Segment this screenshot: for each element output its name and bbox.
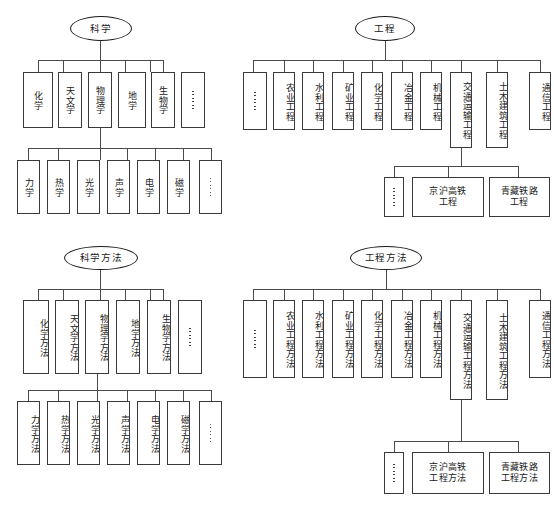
node-physics: 物理学: [88, 72, 112, 128]
node-line-1: 青藏铁路: [501, 186, 539, 197]
node-agricultural-engineering-method: 农业工程方法: [273, 300, 295, 378]
node-mining-engineering: 矿业工程: [332, 72, 354, 130]
node-thermology: 热学: [47, 160, 70, 214]
ellipsis-dots-icon: [210, 424, 211, 443]
connector-drop-engm-9: [497, 289, 498, 300]
ellipsis-dots-icon: [210, 178, 211, 197]
connector-drop-phy-4: [127, 148, 128, 160]
connector-drop-sci-6: [163, 60, 164, 72]
connector-drop-eng-8: [461, 60, 462, 72]
connector-drop-engm-8: [461, 289, 462, 300]
connector-drop-scim-6: [163, 289, 164, 300]
ellipsis-dots-icon: [192, 91, 193, 110]
connector-engineering-method-trunk: [386, 270, 387, 289]
node-civil-construction-engineering-method: 土木建筑工程方法: [486, 300, 508, 400]
connector-drop-phym-2: [58, 390, 59, 401]
node-chemistry: 化学: [23, 72, 53, 128]
connector-drop-scim-3: [100, 289, 101, 300]
connector-drop-sci-4: [125, 60, 126, 72]
connector-drop-eng-5: [372, 60, 373, 72]
connector-transport-bus: [394, 166, 518, 167]
connector-physics-trunk: [100, 128, 101, 148]
connector-drop-phy-2: [58, 148, 59, 160]
node-qinghai-tibet-railway-engineering: 青藏铁路 工程: [489, 177, 550, 217]
node-physics-method: 物理学方法: [85, 300, 109, 374]
connector-drop-sci-1: [38, 60, 39, 72]
node-geoscience-method: 地学方法: [116, 300, 140, 374]
connector-drop-trm-1: [394, 441, 395, 452]
node-transport-method-ellipsis: [384, 452, 404, 494]
node-science-method-ellipsis: [178, 300, 202, 374]
node-water-conservancy-engineering: 水利工程: [302, 72, 324, 130]
connector-science-method-trunk: [100, 270, 101, 289]
connector-drop-tr-2: [448, 166, 449, 177]
connector-drop-engm-2: [284, 289, 285, 300]
connector-drop-eng-3: [313, 60, 314, 72]
node-agricultural-engineering: 农业工程: [273, 72, 295, 130]
node-transportation-engineering: 交通运输工程: [450, 72, 472, 148]
connector-drop-phy-1: [28, 148, 29, 160]
connector-drop-engm-5: [372, 289, 373, 300]
node-communication-engineering: 通信工程: [529, 72, 551, 130]
connector-drop-sci-3: [100, 60, 101, 72]
connector-transport-method-stem: [461, 416, 462, 441]
node-magnetism: 磁学: [167, 160, 190, 214]
connector-drop-eng-7: [431, 60, 432, 72]
node-line-1: 京沪高铁: [429, 462, 467, 473]
connector-drop-eng-6: [402, 60, 403, 72]
node-mechanics: 力学: [17, 160, 40, 214]
connector-drop-eng-10: [540, 60, 541, 72]
connector-drop-phym-7: [211, 390, 212, 401]
node-electricity: 电学: [137, 160, 160, 214]
connector-science-trunk: [100, 41, 101, 60]
node-transport-ellipsis: [384, 177, 404, 217]
node-chemical-engineering-method: 化学工程方法: [361, 300, 383, 378]
connector-drop-eng-4: [343, 60, 344, 72]
connector-drop-tr-1: [394, 166, 395, 177]
connector-drop-eng-1: [253, 60, 254, 72]
root-node-engineering-method: 工程方法: [350, 246, 422, 270]
diagram-canvas: 科学 化学 天文学 物理学 地学 生物学 力学 热学 光学 声学 电学 磁学 工…: [0, 0, 554, 507]
connector-drop-phym-1: [28, 390, 29, 401]
connector-drop-engm-1: [253, 289, 254, 300]
node-line-1: 青藏铁路: [501, 462, 539, 473]
connector-drop-trm-2: [448, 441, 449, 452]
node-line-2: 工程: [510, 197, 529, 208]
root-node-science: 科学: [70, 16, 132, 41]
root-node-engineering: 工程: [355, 16, 415, 41]
connector-drop-trm-3: [518, 441, 519, 452]
connector-transport-method-bus: [394, 441, 518, 442]
node-optics-method: 光学方法: [77, 401, 100, 465]
node-civil-construction-engineering: 土木建筑工程: [486, 72, 508, 148]
node-engineering-method-ellipsis: [243, 300, 267, 378]
node-acoustics-method: 声学方法: [107, 401, 130, 465]
connector-transport-method-trunk: [461, 400, 462, 416]
connector-drop-engm-3: [313, 289, 314, 300]
connector-drop-phy-3: [100, 148, 101, 160]
connector-drop-eng-9: [497, 60, 498, 72]
node-line-1: 京沪高铁: [429, 186, 467, 197]
connector-drop-engm-10: [540, 289, 541, 300]
ellipsis-dots-icon: [393, 188, 394, 207]
node-mechanical-engineering-method: 机械工程方法: [420, 300, 442, 378]
connector-drop-eng-2: [284, 60, 285, 72]
node-beijing-shanghai-hsr-engineering: 京沪高铁 工程: [412, 177, 484, 217]
connector-drop-scim-5: [150, 289, 151, 300]
connector-drop-phy-6: [183, 148, 184, 160]
node-biology-method: 生物学方法: [147, 300, 171, 374]
node-engineering-ellipsis: [243, 72, 267, 130]
node-transportation-engineering-method: 交通运输工程方法: [450, 300, 472, 400]
connector-drop-phym-5: [155, 390, 156, 401]
node-physics-method-ellipsis: [199, 401, 222, 465]
node-electricity-method: 电学方法: [137, 401, 160, 465]
node-optics: 光学: [77, 160, 100, 214]
connector-drop-phy-7: [211, 148, 212, 160]
connector-drop-scim-4: [125, 289, 126, 300]
connector-drop-engm-6: [402, 289, 403, 300]
connector-drop-phym-3: [97, 390, 98, 401]
node-magnetism-method: 磁学方法: [167, 401, 190, 465]
node-line-2: 工程方法: [501, 473, 539, 484]
node-line-2: 工程方法: [429, 473, 467, 484]
node-thermology-method: 热学方法: [47, 401, 70, 465]
ellipsis-dots-icon: [254, 330, 255, 349]
